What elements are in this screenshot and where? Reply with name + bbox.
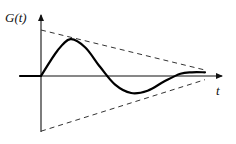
upper-envelope [41, 30, 205, 70]
lower-envelope [41, 80, 205, 132]
y-axis-label: G(t) [5, 10, 27, 25]
x-axis-label: t [216, 83, 220, 98]
damped-response-diagram: G(t) t [0, 0, 236, 144]
